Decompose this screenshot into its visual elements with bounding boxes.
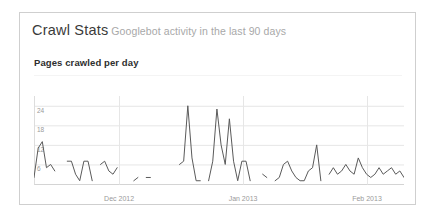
pages-crawled-line-chart: 2418126 bbox=[34, 86, 404, 196]
chart-section-title: Pages crawled per day bbox=[34, 57, 139, 68]
header-divider bbox=[34, 75, 402, 76]
svg-text:24: 24 bbox=[37, 107, 45, 114]
page-title: Crawl Stats bbox=[32, 22, 108, 38]
page-subtitle: Googlebot activity in the last 90 days bbox=[111, 25, 286, 37]
svg-text:6: 6 bbox=[37, 165, 41, 172]
screenshot-root: Crawl StatsGooglebot activity in the las… bbox=[0, 0, 441, 222]
x-axis-tick-label: Feb 2013 bbox=[352, 195, 382, 202]
x-axis: Dec 2012Jan 2013Feb 2013 bbox=[34, 195, 404, 207]
crawl-chart: 2418126 bbox=[34, 86, 404, 196]
svg-text:18: 18 bbox=[37, 126, 45, 133]
panel-header: Crawl StatsGooglebot activity in the las… bbox=[32, 21, 286, 39]
x-axis-tick-label: Jan 2013 bbox=[229, 195, 258, 202]
x-axis-tick-label: Dec 2012 bbox=[104, 195, 134, 202]
crawl-stats-panel: Crawl StatsGooglebot activity in the las… bbox=[19, 12, 416, 205]
